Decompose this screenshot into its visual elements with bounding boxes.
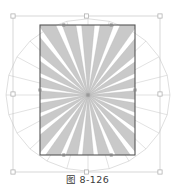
handle-top-center[interactable] (84, 14, 88, 18)
handle-middle-left[interactable] (11, 92, 15, 96)
figure-caption: 图 8-126 (0, 174, 175, 186)
handle-middle-right[interactable] (158, 92, 162, 96)
rect-edge-marker[interactable] (39, 89, 42, 92)
rect-edge-marker[interactable] (62, 24, 65, 27)
figure-container: 图 8-126 (0, 0, 175, 195)
rect-edge-marker[interactable] (62, 154, 65, 157)
rect-edge-marker[interactable] (134, 89, 137, 92)
radial-starburst-drawing[interactable] (0, 0, 175, 175)
rect-edge-marker[interactable] (110, 24, 113, 27)
center-grip-marker[interactable] (86, 93, 89, 96)
rect-edge-marker[interactable] (110, 154, 113, 157)
handle-top-right[interactable] (158, 14, 162, 18)
wedge-group (0, 0, 175, 175)
handle-top-left[interactable] (11, 14, 15, 18)
